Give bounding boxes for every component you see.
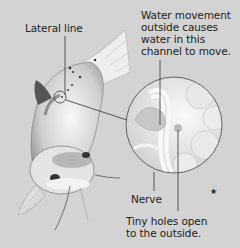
- label-water-movement: Water movement outside causes water in t…: [141, 9, 231, 57]
- label-nerve: Nerve: [131, 193, 162, 205]
- pectoral-fin: [18, 185, 45, 215]
- magnifier-circle: [126, 77, 227, 177]
- label-lateral-line: Lateral line: [25, 22, 83, 34]
- label-tiny-holes: Tiny holes open to the outside.: [126, 215, 207, 239]
- label-line: Water movement: [141, 9, 231, 21]
- label-line: outside causes: [141, 21, 231, 33]
- label-line: Tiny holes open: [126, 215, 207, 227]
- label-line: water in this: [141, 33, 231, 45]
- fish-head: [30, 146, 94, 194]
- star-icon: ★: [210, 187, 217, 196]
- label-line: to the outside.: [126, 227, 207, 239]
- label-line: channel to move.: [141, 45, 231, 57]
